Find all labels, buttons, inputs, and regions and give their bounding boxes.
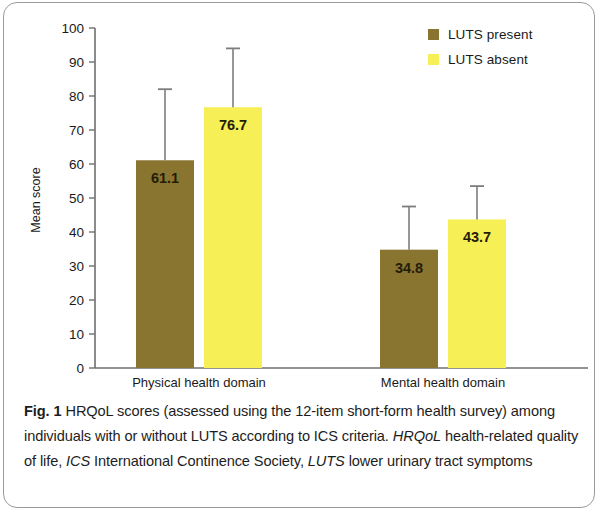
bar-value-label: 43.7 (463, 229, 491, 245)
y-axis-tick-label: 10 (69, 327, 84, 342)
y-axis-tick-label: 90 (69, 55, 84, 70)
bar-luts-present (136, 160, 194, 368)
legend-item-luts-absent: LUTS absent (428, 52, 588, 66)
bar-value-label: 61.1 (151, 170, 179, 186)
bar-value-label: 34.8 (395, 260, 423, 276)
bar-value-label: 76.7 (219, 117, 247, 133)
chart-legend: LUTS present LUTS absent (428, 27, 588, 77)
y-axis-tick-label: 50 (69, 191, 84, 206)
x-axis-category-label: Physical health domain (132, 375, 266, 390)
caption-abbr-ics: ICS (66, 453, 90, 469)
legend-item-luts-present: LUTS present (428, 27, 588, 41)
caption-abbr-ics-text: International Continence Society, (90, 453, 304, 469)
caption-figure-number: Fig. 1 (24, 403, 62, 419)
y-axis-tick-label: 30 (69, 259, 84, 274)
legend-swatch-luts-present (428, 29, 439, 40)
figure-container: 0102030405060708090100Mean score61.176.7… (0, 0, 601, 515)
caption-abbr-luts: LUTS (308, 453, 345, 469)
figure-caption: Fig. 1 HRQoL scores (assessed using the … (24, 399, 580, 474)
caption-abbr-hrqol: HRQoL (393, 428, 441, 444)
x-axis-category-label: Mental health domain (381, 375, 505, 390)
legend-swatch-luts-absent (428, 54, 439, 65)
bar-luts-absent (204, 107, 262, 368)
y-axis-tick-label: 70 (69, 123, 84, 138)
caption-abbr-luts-text: lower urinary tract symptoms (345, 453, 533, 469)
legend-label-luts-present: LUTS present (448, 27, 533, 42)
y-axis-tick-label: 20 (69, 293, 84, 308)
legend-label-luts-absent: LUTS absent (448, 52, 528, 67)
y-axis-tick-label: 60 (69, 157, 84, 172)
y-axis-tick-label: 80 (69, 89, 84, 104)
caption-line-1: HRQoL scores (assessed using the 12-item… (62, 403, 456, 419)
y-axis-title: Mean score (29, 167, 43, 232)
y-axis-tick-label: 0 (76, 361, 84, 376)
y-axis-tick-label: 100 (61, 21, 84, 36)
y-axis-tick-label: 40 (69, 225, 84, 240)
